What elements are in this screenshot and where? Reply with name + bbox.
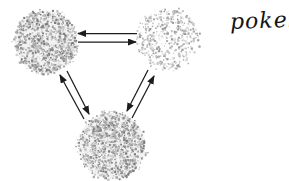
- molecule-top-left-blob: [12, 9, 79, 75]
- handwritten-annotation: pokek: [229, 0, 289, 43]
- arrow-bottom-to-topright: [132, 76, 154, 118]
- scanned-diagram-page: pokek: [0, 0, 289, 181]
- arrow-topright-to-bottom: [127, 70, 148, 111]
- molecule-bottom-blob: [75, 110, 148, 181]
- molecule-top-right-blob: [136, 8, 201, 72]
